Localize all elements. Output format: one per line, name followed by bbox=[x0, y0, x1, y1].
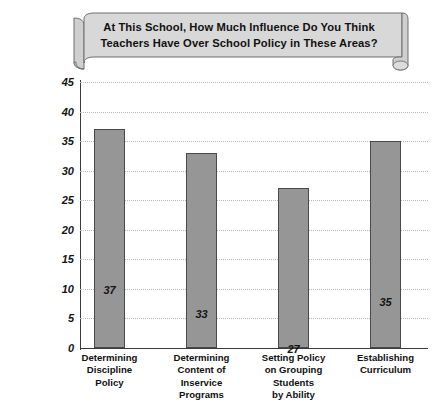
bar-value-label-2: 33 bbox=[195, 308, 207, 320]
bar-value-label-1: 37 bbox=[103, 284, 115, 296]
x-label-3-line-3: Students bbox=[246, 377, 342, 389]
y-axis-tick-labels: 0 5 10 15 20 25 30 35 40 45 bbox=[48, 82, 74, 348]
x-axis-category-labels: Determining Discipline Policy Determinin… bbox=[80, 352, 428, 414]
x-label-2-line-4: Programs bbox=[156, 389, 248, 401]
x-label-1-line-1: Determining bbox=[64, 352, 156, 364]
x-label-determining-content-of-inservice-programs: Determining Content of Inservice Program… bbox=[156, 352, 248, 402]
gridline-45 bbox=[80, 82, 428, 83]
x-label-3-line-4: by Ability bbox=[246, 389, 342, 401]
chart-title-banner: At This School, How Much Influence Do Yo… bbox=[56, 10, 410, 72]
y-tick-30: 30 bbox=[50, 165, 74, 177]
y-tick-45: 45 bbox=[50, 76, 74, 88]
y-tick-35: 35 bbox=[50, 135, 74, 147]
x-label-setting-policy-on-grouping-students-by-ability: Setting Policy on Grouping Students by A… bbox=[246, 352, 342, 402]
bar-value-label-4: 35 bbox=[379, 296, 391, 308]
y-tick-40: 40 bbox=[50, 106, 74, 118]
x-label-3-line-2: on Grouping bbox=[246, 364, 342, 376]
bar-determining-discipline-policy bbox=[94, 129, 125, 348]
x-label-4-line-1: Establishing bbox=[338, 352, 434, 364]
y-tick-20: 20 bbox=[50, 224, 74, 236]
x-label-2-line-3: Inservice bbox=[156, 377, 248, 389]
y-tick-15: 15 bbox=[50, 253, 74, 265]
x-label-2-line-1: Determining bbox=[156, 352, 248, 364]
bar-establishing-curriculum bbox=[370, 141, 401, 348]
x-label-determining-discipline-policy: Determining Discipline Policy bbox=[64, 352, 156, 389]
x-label-3-line-1: Setting Policy bbox=[246, 352, 342, 364]
y-tick-5: 5 bbox=[50, 312, 74, 324]
plot-area: 37 33 27 35 bbox=[80, 82, 428, 348]
bar-setting-policy-on-grouping-students-by-ability bbox=[278, 188, 309, 348]
x-label-establishing-curriculum: Establishing Curriculum bbox=[338, 352, 434, 377]
x-label-2-line-2: Content of bbox=[156, 364, 248, 376]
chart-title-text: At This School, How Much Influence Do Yo… bbox=[84, 20, 394, 51]
x-label-4-line-2: Curriculum bbox=[338, 364, 434, 376]
chart-title-line-1: At This School, How Much Influence Do Yo… bbox=[84, 20, 394, 36]
y-tick-25: 25 bbox=[50, 194, 74, 206]
x-label-1-line-3: Policy bbox=[64, 377, 156, 389]
gridline-40 bbox=[80, 112, 428, 113]
y-tick-10: 10 bbox=[50, 283, 74, 295]
chart-title-line-2: Teachers Have Over School Policy in Thes… bbox=[84, 36, 394, 52]
x-label-1-line-2: Discipline bbox=[64, 364, 156, 376]
